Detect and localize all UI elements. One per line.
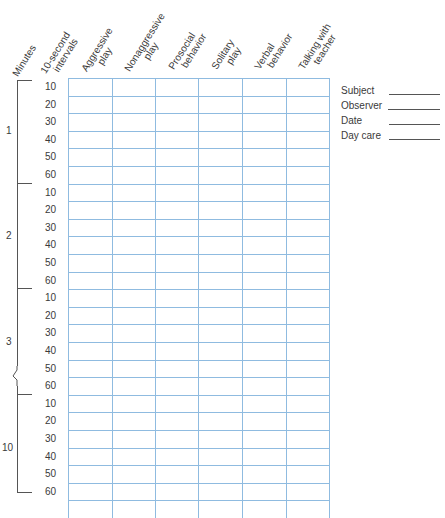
header-solitary-play: Solitary play	[210, 38, 245, 77]
interval-label: 20	[38, 99, 56, 110]
bracket-line	[17, 288, 32, 289]
meta-input-line[interactable]	[389, 124, 440, 125]
interval-label: 10	[38, 187, 56, 198]
interval-label: 10	[38, 292, 56, 303]
grid-column-line	[329, 78, 330, 518]
header-prosocial-behavior: Prosocial behavior	[167, 27, 209, 77]
interval-label: 40	[38, 451, 56, 462]
bracket-line	[17, 80, 18, 366]
bracket-line	[17, 492, 32, 493]
meta-input-line[interactable]	[389, 139, 440, 140]
interval-label: 60	[38, 486, 56, 497]
grid-column-line	[286, 78, 287, 518]
interval-label: 30	[38, 433, 56, 444]
header-aggressive-play: Aggressive play	[80, 26, 123, 79]
interval-label: 50	[38, 151, 56, 162]
minute-label: 2	[6, 230, 12, 241]
meta-label-observer: Observer	[341, 100, 382, 111]
interval-label: 30	[38, 116, 56, 127]
interval-label: 20	[38, 204, 56, 215]
interval-label: 30	[38, 222, 56, 233]
interval-label: 50	[38, 363, 56, 374]
grid-column-line	[68, 78, 69, 518]
header-minutes: Minutes	[11, 43, 38, 78]
interval-label: 60	[38, 169, 56, 180]
interval-label: 40	[38, 345, 56, 356]
grid-column-line	[155, 78, 156, 518]
interval-label: 50	[38, 468, 56, 479]
interval-label: 10	[38, 398, 56, 409]
header-verbal-behavior: Verbal behavior	[253, 27, 295, 77]
meta-label-subject: Subject	[341, 85, 374, 96]
minute-label: 3	[6, 336, 12, 347]
grid-column-line	[198, 78, 199, 518]
interval-label: 20	[38, 310, 56, 321]
interval-label: 60	[38, 380, 56, 391]
grid-column-line	[242, 78, 243, 518]
header-nonaggressive-play: Nonaggressive play	[123, 11, 175, 78]
meta-label-day-care: Day care	[341, 130, 381, 141]
interval-label: 60	[38, 275, 56, 286]
break-zigzag-icon	[12, 366, 24, 386]
interval-label: 40	[38, 134, 56, 145]
interval-label: 10	[38, 81, 56, 92]
observation-grid[interactable]	[68, 78, 329, 518]
meta-label-date: Date	[341, 115, 362, 126]
interval-label: 50	[38, 257, 56, 268]
bracket-line	[17, 183, 32, 184]
header-intervals: 10-second intervals	[39, 30, 81, 80]
minute-label: 10	[2, 442, 13, 453]
interval-label: 30	[38, 327, 56, 338]
bracket-line	[17, 394, 32, 395]
meta-input-line[interactable]	[388, 109, 440, 110]
header-talking-with-teacher: Talking with teacher	[297, 22, 341, 76]
interval-label: 40	[38, 239, 56, 250]
meta-input-line[interactable]	[389, 94, 440, 95]
bracket-line	[17, 80, 32, 81]
grid-column-line	[112, 78, 113, 518]
interval-label: 20	[38, 415, 56, 426]
minute-label: 1	[6, 125, 12, 136]
bracket-line	[17, 386, 18, 493]
